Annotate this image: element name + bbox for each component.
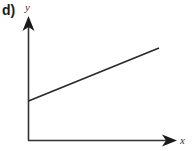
y-axis-label: y [24,1,30,13]
x-axis-label: x [179,134,185,146]
data-line [29,48,160,101]
x-axis [28,135,177,147]
graph: y x [0,0,192,151]
y-axis [23,16,35,141]
